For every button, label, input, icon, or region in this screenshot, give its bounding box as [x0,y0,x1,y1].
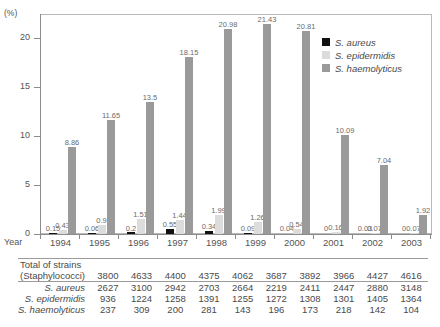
bar-shaemolyticus-2000 [302,31,310,234]
table-cell: 3892 [293,270,327,282]
table-row: Total of strains [18,259,428,271]
chart-page: (%) 05101520 0.150.438.860.060.911.650.2… [0,0,440,327]
x-axis-line [40,234,432,235]
legend-item-s-aureus: S. aureus [322,36,402,48]
table-row: S. epidermidis93612241258139112551272130… [18,293,428,304]
table-cell: 4375 [192,270,226,282]
bar-sepidermidis-1995 [98,225,106,234]
bar-sepidermidis-1997 [176,220,184,234]
legend-label-s-aureus: S. aureus [335,37,376,48]
y-axis-tick-label: 5 [4,179,30,189]
bar-shaemolyticus-1997 [185,57,193,234]
table-row-label: Total of strains [18,259,91,271]
table-cell: 1308 [293,293,327,304]
bar-value-label: 13.5 [137,93,163,102]
bar-shaemolyticus-1999 [263,24,271,234]
table-cell: 2703 [192,282,226,294]
table-cell: 173 [293,304,327,315]
chart-legend: S. aureus S. epidermidis S. haemolyticus [322,36,402,75]
table-cell [226,259,260,271]
bar-value-label: 7.04 [371,156,397,165]
table-cell: 3800 [91,270,125,282]
bar-value-label: 21.43 [254,15,280,24]
table-cell: 104 [394,304,428,315]
table-cell [125,259,159,271]
x-axis-label-1999: 1999 [236,237,276,248]
table-cell [192,259,226,271]
table-row: S. haemolyticus2373092002811431961732181… [18,304,428,315]
legend-swatch-icon-s-aureus [322,38,330,46]
x-axis-label-1995: 1995 [80,237,120,248]
table-cell: 1405 [361,293,395,304]
legend-label-s-haemolyticus: S. haemolyticus [335,63,402,74]
legend-item-s-haemolyticus: S. haemolyticus [322,62,402,74]
y-axis-tick-mark [34,136,40,137]
bar-value-label: 20.81 [293,22,319,31]
table: Total of strains(Staphylococci)380046334… [18,258,428,315]
table-row-label: S. aureus [18,282,91,294]
table-cell: 2942 [158,282,192,294]
bar-sepidermidis-2000 [293,229,301,234]
table-cell: 237 [91,304,125,315]
table-cell: 196 [260,304,294,315]
x-axis-label-2000: 2000 [275,237,315,248]
table-cell [293,259,327,271]
x-axis-label-2001: 2001 [314,237,354,248]
table-cell: 4616 [394,270,428,282]
table-cell [260,259,294,271]
table-cell: 3100 [125,282,159,294]
table-cell: 1258 [158,293,192,304]
table-cell: 2880 [361,282,395,294]
y-axis-tick-mark [34,38,40,39]
x-axis-label-1997: 1997 [158,237,198,248]
y-axis-tick-mark [34,87,40,88]
table-cell: 142 [361,304,395,315]
bar-shaemolyticus-1996 [146,102,154,234]
y-axis-tick-label: 10 [4,130,30,140]
table-cell: 200 [158,304,192,315]
y-axis-tick-label: 15 [4,81,30,91]
x-axis-title: Year [4,237,22,247]
bar-chart: (%) 05101520 0.150.438.860.060.911.650.2… [0,0,440,250]
bar-value-label: 8.86 [59,138,85,147]
bar-sepidermidis-1994 [59,230,67,234]
table-cell: 2627 [91,282,125,294]
x-axis-label-1996: 1996 [119,237,159,248]
legend-item-s-epidermidis: S. epidermidis [322,49,402,61]
bar-saureus-1998 [205,231,213,234]
table-cell: 1224 [125,293,159,304]
x-axis-label-1994: 1994 [41,237,81,248]
bar-shaemolyticus-1994 [68,147,76,234]
table-cell: 1272 [260,293,294,304]
table-cell: 4400 [158,270,192,282]
bar-sepidermidis-1999 [254,222,262,234]
table-row: S. aureus2627310029422703266422192411244… [18,282,428,294]
bar-saureus-1997 [166,229,174,234]
table-cell: 2411 [293,282,327,294]
table-cell: 218 [327,304,361,315]
table-cell [327,259,361,271]
bar-shaemolyticus-2003 [419,215,427,234]
bar-value-label: 18.15 [176,48,202,57]
table-cell: 4062 [226,270,260,282]
y-axis-tick-label: 20 [4,32,30,42]
table-row: (Staphylococci)3800463344004375406236873… [18,270,428,282]
bar-sepidermidis-2001 [332,232,340,234]
bar-shaemolyticus-1995 [107,120,115,234]
table-cell [394,259,428,271]
table-cell: 1255 [226,293,260,304]
legend-swatch-icon-s-epidermidis [322,51,330,59]
x-axis-label-2003: 2003 [392,237,432,248]
bar-value-label: 1.92 [410,206,436,215]
table-cell: 2664 [226,282,260,294]
table-cell: 1391 [192,293,226,304]
table-cell [91,259,125,271]
strain-counts-table: Total of strains(Staphylococci)380046334… [18,258,428,315]
x-axis-label-2002: 2002 [353,237,393,248]
table-cell [158,259,192,271]
table-cell: 2447 [327,282,361,294]
legend-swatch-icon-s-haemolyticus [322,64,330,72]
table-cell: 4427 [361,270,395,282]
bar-shaemolyticus-2001 [341,135,349,234]
bar-value-label: 10.09 [332,126,358,135]
